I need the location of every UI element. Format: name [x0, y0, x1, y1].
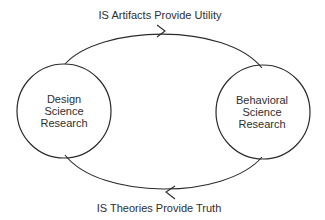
design-science-label-line-3: Research: [19, 117, 109, 129]
behavioral-science-node-label: Behavioral Science Research: [217, 94, 307, 130]
behavioral-science-label-line-1: Behavioral: [217, 94, 307, 106]
design-science-label-line-1: Design: [19, 93, 109, 105]
truth-arrowhead-icon: [166, 186, 175, 199]
design-science-label-line-2: Science: [19, 105, 109, 117]
behavioral-science-label-line-2: Science: [217, 106, 307, 118]
design-science-node-label: Design Science Research: [19, 93, 109, 129]
utility-arrowhead-icon: [157, 25, 165, 37]
behavioral-science-label-line-3: Research: [217, 118, 307, 130]
truth-edge-label: IS Theories Provide Truth: [59, 202, 259, 215]
truth-arrow-arc: [65, 155, 262, 189]
utility-arrow-arc: [65, 34, 262, 68]
utility-edge-label: IS Artifacts Provide Utility: [60, 9, 260, 22]
